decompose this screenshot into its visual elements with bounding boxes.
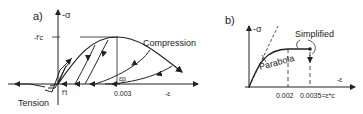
a-panel-tag: a) (33, 10, 43, 22)
a-x-axis-label: -ε (165, 90, 170, 97)
parabola-curve (249, 49, 310, 87)
panel-b: b) -σ Simplified Parabola -ε 0.002 0.003… (225, 14, 355, 99)
tension-strength-label: f't (62, 89, 67, 96)
a-peak-label: -f'c (34, 34, 44, 41)
tension-label: Tension (18, 98, 49, 108)
panel-a: a) -σ -f'c Compression εp f't 0.003 -ε T… (8, 10, 198, 108)
plastic-strain-label: εp (119, 75, 126, 83)
b-strain-tick-2: 0.0035=ε*c (300, 92, 335, 99)
simplified-label: Simplified (295, 29, 334, 39)
b-panel-tag: b) (225, 14, 235, 26)
stress-strain-diagram: a) -σ -f'c Compression εp f't 0.003 -ε T… (0, 0, 363, 114)
b-y-axis-label: -σ (253, 24, 262, 34)
a-strain-tick: 0.003 (114, 90, 132, 97)
b-strain-tick-1: 0.002 (276, 92, 294, 99)
compression-label: Compression (143, 38, 196, 48)
b-x-axis-label: -ε (337, 76, 342, 83)
parabola-label: Parabola (258, 53, 295, 72)
a-y-axis-label: -σ (62, 10, 71, 20)
